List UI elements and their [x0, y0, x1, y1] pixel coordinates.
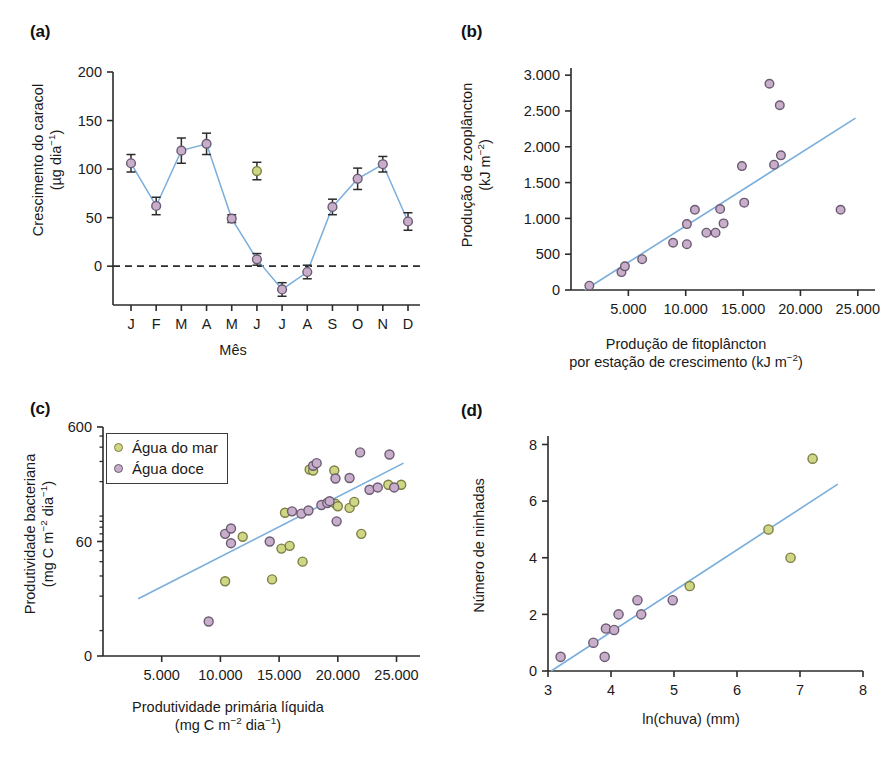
panel-b-ylabel-line1: Produção de zooplâncton: [459, 83, 475, 247]
panel-c-data-point: [350, 497, 359, 506]
panel-d-ytick-label: 0: [529, 663, 537, 679]
panel-d-data-point: [668, 596, 677, 605]
panel-b-data-point: [621, 262, 630, 271]
panel-c-ylabel: Produtividade bacteriana (mg C m−2 dia−1…: [22, 409, 57, 659]
panel-c-xtick-label: 20.000: [316, 667, 360, 683]
panel-c-xlabel-line1: Produtividade primária líquida: [132, 699, 324, 715]
panel-a-plot: 050100150200JFMAMJJASOND: [0, 0, 443, 390]
panel-b-data-point: [691, 205, 700, 214]
panel-a-data-point: [378, 160, 387, 169]
panel-d-ytick-label: 2: [529, 607, 537, 623]
panel-c-data-point: [226, 524, 235, 533]
panel-d-data-point: [610, 625, 619, 634]
panel-c-data-point: [304, 506, 313, 515]
panel-b-xtick-label: 10.000: [664, 301, 708, 317]
panel-d-label: (d): [461, 401, 482, 421]
panel-b-data-point: [775, 101, 784, 110]
panel-a-series-line: [131, 144, 408, 290]
panel-c-xtick-label: 10.000: [198, 667, 242, 683]
panel-b-data-point: [716, 205, 725, 214]
panel-c-xlabel-line2: (mg C m−2 dia−1): [175, 717, 281, 733]
panel-b-ytick-label: 0: [552, 282, 560, 298]
panel-b-data-point: [719, 219, 728, 228]
panel-b-data-point: [738, 162, 747, 171]
panel-a: (a) Crescimento do caracol (µg dia−1) Mê…: [0, 0, 443, 390]
panel-b-ytick-label: 1.000: [524, 211, 560, 227]
panel-a-data-point: [278, 285, 287, 294]
panel-a-data-point: [127, 159, 136, 168]
panel-b-xlabel-line1: Produção de fitoplâncton: [606, 336, 766, 352]
panel-c-data-point: [357, 529, 366, 538]
panel-c-ylabel-line2: (mg C m−2 dia−1): [40, 481, 56, 587]
panel-b-data-point: [702, 228, 711, 237]
panel-a-ylabel-line1: Crescimento do caracol: [30, 84, 46, 236]
panel-b-ylabel-line2: (kJ m−2): [477, 139, 493, 191]
panel-c-ytick-label: 0: [84, 648, 92, 664]
panel-a-data-point: [202, 139, 211, 148]
panel-c-data-point: [204, 617, 213, 626]
panel-d-xtick-label: 5: [670, 682, 678, 698]
panel-a-xtick-label: A: [302, 316, 312, 332]
panel-a-xtick-label: J: [127, 316, 134, 332]
panel-c-data-point: [332, 517, 341, 526]
panel-a-xtick-label: A: [202, 316, 212, 332]
panel-a-xtick-label: D: [403, 316, 413, 332]
panel-c-xtick-label: 15.000: [257, 667, 301, 683]
panel-a-ytick-label: 150: [78, 113, 102, 129]
legend-item-seawater[interactable]: Água do mar: [114, 437, 218, 458]
panel-c-data-point: [285, 541, 294, 550]
panel-c-xtick-label: 25.000: [374, 667, 418, 683]
panel-b-xtick-label: 20.000: [778, 301, 822, 317]
panel-b-xtick-label: 5.000: [610, 301, 646, 317]
panel-a-xtick-label: O: [352, 316, 363, 332]
panel-d-data-point: [764, 525, 773, 534]
panel-c-data-point: [390, 483, 399, 492]
panel-a-data-point: [328, 203, 337, 212]
panel-b-data-point: [770, 160, 779, 169]
panel-b-ytick-label: 3.000: [524, 67, 560, 83]
panel-a-xtick-label: M: [226, 316, 238, 332]
figure-root: (a) Crescimento do caracol (µg dia−1) Mê…: [0, 0, 886, 771]
panel-d-data-point: [589, 638, 598, 647]
panel-c-xtick-label: 5.000: [144, 667, 180, 683]
panel-c-data-point: [298, 557, 307, 566]
panel-c-data-point: [345, 474, 354, 483]
panel-b-data-point: [683, 220, 692, 229]
legend-swatch-seawater: [114, 443, 123, 452]
panel-a-ytick-label: 200: [78, 64, 102, 80]
panel-b-ytick-label: 1.500: [524, 175, 560, 191]
panel-d-data-point: [786, 553, 795, 562]
panel-d-data-point: [614, 610, 623, 619]
panel-b-data-point: [669, 238, 678, 247]
legend-swatch-freshwater: [114, 464, 123, 473]
panel-b-ytick-label: 500: [536, 246, 560, 262]
panel-b-data-point: [777, 151, 786, 160]
legend-item-freshwater[interactable]: Água doce: [114, 458, 218, 479]
panel-d-xtick-label: 8: [859, 682, 867, 698]
panel-c-data-point: [268, 575, 277, 584]
panel-d-xtick-label: 4: [607, 682, 615, 698]
panel-c-ylabel-line1: Produtividade bacteriana: [22, 454, 38, 614]
panel-c-xlabel: Produtividade primária líquida (mg C m−2…: [28, 699, 428, 734]
panel-a-ylabel-line2: (µg dia−1): [48, 130, 64, 191]
panel-a-ytick-label: 100: [78, 161, 102, 177]
panel-d-xtick-label: 3: [544, 682, 552, 698]
panel-b-xlabel-line2: por estação de crescimento (kJ m−2): [569, 354, 803, 370]
panel-a-isolated-point: [253, 167, 262, 176]
panel-b-plot: 05001.0001.5002.0002.5003.0005.00010.000…: [443, 0, 886, 390]
panel-a-data-point: [177, 146, 186, 155]
panel-c-ytick-label: 60: [76, 534, 92, 550]
panel-d-data-point: [600, 652, 609, 661]
panel-c-data-point: [331, 474, 340, 483]
panel-c: (c) Produtividade bacteriana (mg C m−2 d…: [0, 381, 443, 771]
panel-d-data-point: [685, 581, 694, 590]
panel-d: (d) Número de ninhadas ln(chuva) (mm) 02…: [443, 381, 886, 771]
panel-a-label: (a): [30, 22, 50, 42]
panel-d-xlabel: ln(chuva) (mm): [541, 711, 841, 729]
panel-c-data-point: [356, 448, 365, 457]
panel-b-ytick-label: 2.500: [524, 103, 560, 119]
panel-c-ytick-label: 600: [68, 419, 92, 435]
panel-a-xtick-label: J: [253, 316, 260, 332]
panel-a-ytick-label: 0: [94, 258, 102, 274]
panel-a-xtick-label: F: [152, 316, 161, 332]
